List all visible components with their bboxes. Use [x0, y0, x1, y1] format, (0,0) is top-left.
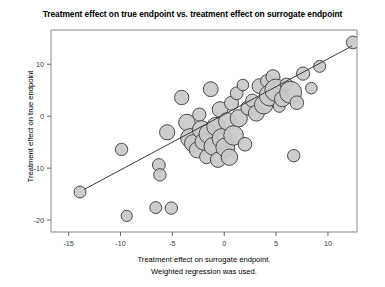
svg-text:-10: -10 — [115, 239, 125, 248]
svg-text:-20: -20 — [34, 216, 44, 225]
svg-text:10: 10 — [324, 239, 332, 248]
svg-text:-10: -10 — [34, 164, 44, 173]
svg-text:0: 0 — [222, 239, 226, 248]
svg-text:-5: -5 — [169, 239, 175, 248]
svg-text:5: 5 — [274, 239, 278, 248]
svg-text:10: 10 — [36, 60, 44, 69]
scatter-plot: -15-10-50510100-10-20 — [0, 0, 385, 287]
y-axis-label: Treatment effect on true endpoint — [26, 37, 35, 217]
svg-text:0: 0 — [40, 112, 44, 121]
svg-text:-15: -15 — [63, 239, 73, 248]
x-axis-label: Treatment effect on surrogate endpoint. … — [51, 254, 357, 277]
x-axis-label-line2: Weighted regression was used. — [51, 266, 357, 278]
x-axis-label-line1: Treatment effect on surrogate endpoint. — [51, 254, 357, 266]
chart-root: Treatment effect on true endpoint vs. tr… — [0, 0, 385, 287]
